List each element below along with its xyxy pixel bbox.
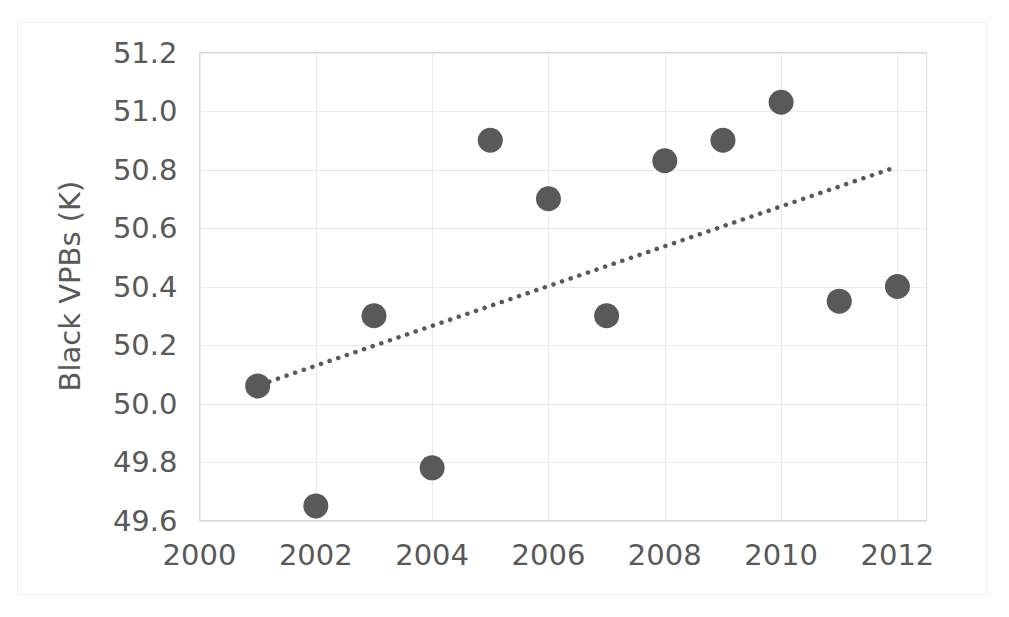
y-axis-title: Black VPBs (K)	[53, 181, 87, 392]
y-axis-tick-labels: 49.649.850.050.250.450.650.851.051.2	[113, 36, 178, 538]
data-point	[710, 128, 735, 153]
data-point	[885, 274, 910, 299]
data-point	[303, 493, 328, 518]
plot-area-border	[200, 53, 927, 521]
data-point-markers	[245, 90, 910, 519]
x-tick-label: 2012	[861, 538, 935, 572]
y-tick-label: 50.6	[113, 211, 178, 245]
trendline-path	[269, 167, 897, 382]
y-tick-label: 49.6	[113, 504, 178, 538]
data-point	[420, 455, 445, 480]
y-tick-label: 50.8	[113, 153, 178, 187]
x-tick-label: 2000	[163, 538, 237, 572]
horizontal-gridlines	[200, 54, 927, 522]
y-tick-label: 50.0	[113, 387, 178, 421]
y-tick-label: 50.2	[113, 328, 178, 362]
x-tick-label: 2008	[628, 538, 702, 572]
x-tick-label: 2004	[395, 538, 469, 572]
y-tick-label: 49.8	[113, 445, 178, 479]
x-tick-label: 2006	[512, 538, 586, 572]
x-tick-label: 2002	[279, 538, 353, 572]
data-point	[245, 373, 270, 398]
data-point	[361, 303, 386, 328]
y-tick-label: 51.0	[113, 94, 178, 128]
data-point	[594, 303, 619, 328]
x-tick-label: 2010	[744, 538, 818, 572]
data-point	[478, 128, 503, 153]
vertical-gridlines	[201, 53, 898, 521]
data-point	[769, 90, 794, 115]
x-axis-tick-labels: 2000200220042006200820102012	[163, 538, 935, 572]
scatter-chart: 49.649.850.050.250.450.650.851.051.2 200…	[0, 0, 1009, 617]
trendline	[269, 167, 897, 382]
y-tick-label: 51.2	[113, 36, 178, 70]
y-tick-label: 50.4	[113, 270, 178, 304]
data-point	[827, 289, 852, 314]
data-point	[652, 148, 677, 173]
data-point	[536, 186, 561, 211]
